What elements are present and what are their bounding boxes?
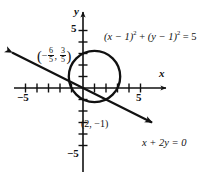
- y-axis: [79, 12, 88, 172]
- circle-equation-y-group: (y − 1): [148, 31, 177, 42]
- tangent-point-label: (2, −1): [81, 119, 108, 129]
- coordinate-plane-graphic: [0, 0, 214, 177]
- x-axis-tick-label-positive-five: 5: [136, 92, 142, 103]
- math-figure: −5 5 5 −5 x y (x − 1)2 + (y − 1)2 = 5 x …: [0, 0, 214, 177]
- x-axis-tick-label-negative-five: −5: [17, 92, 29, 103]
- intersection-point-label: (−65, 35): [37, 47, 71, 64]
- y-axis-tick-label-negative-five: −5: [67, 148, 79, 159]
- intersection-comma: ,: [54, 50, 59, 61]
- intersection-first-sign: −: [42, 50, 48, 61]
- y-axis-tick-label-positive-five: 5: [71, 23, 77, 34]
- intersection-close-paren: ): [66, 48, 71, 64]
- circle-equation-equals: = 5: [180, 31, 196, 42]
- circle-equation-plus: +: [137, 31, 148, 42]
- circle-equation-label: (x − 1)2 + (y − 1)2 = 5: [104, 30, 197, 42]
- circle-equation-x-group: (x − 1): [104, 31, 133, 42]
- line-equation-label: x + 2y = 0: [142, 138, 187, 149]
- x-axis-label: x: [159, 68, 165, 79]
- y-axis-label: y: [74, 6, 79, 17]
